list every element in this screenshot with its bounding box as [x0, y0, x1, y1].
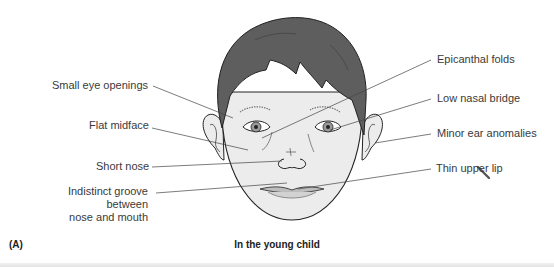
right-eye-icon	[315, 121, 341, 132]
label-low-nasal-bridge: Low nasal bridge	[437, 92, 520, 105]
label-short-nose: Short nose	[96, 160, 149, 173]
label-indistinct-groove-line1: Indistinct groove between	[24, 185, 148, 211]
face-outline	[222, 92, 363, 220]
label-small-eye-openings: Small eye openings	[52, 79, 148, 92]
bottom-divider	[0, 263, 554, 267]
label-epicanthal-folds: Epicanthal folds	[437, 53, 515, 66]
figure-caption: In the young child	[0, 239, 554, 250]
label-flat-midface: Flat midface	[89, 119, 149, 132]
label-minor-ear-anomalies: Minor ear anomalies	[437, 127, 537, 140]
label-indistinct-groove-line2: nose and mouth	[24, 211, 148, 224]
figure: Small eye openings Flat midface Short no…	[0, 0, 554, 267]
label-indistinct-groove: Indistinct groove between nose and mouth	[24, 185, 148, 224]
label-thin-upper-lip: Thin upper lip	[436, 162, 503, 175]
